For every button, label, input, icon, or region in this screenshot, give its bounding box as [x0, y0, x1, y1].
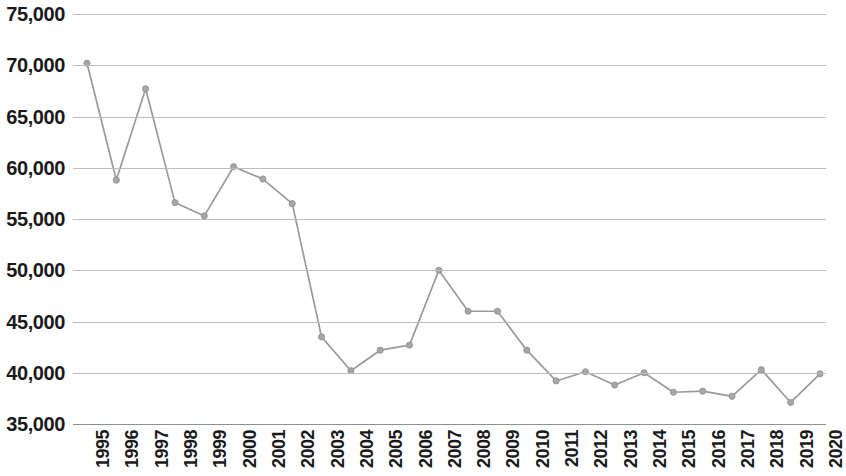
x-tick-label: 2012 [592, 430, 610, 468]
y-tick-label: 60,000 [6, 156, 65, 179]
data-point [406, 342, 412, 348]
data-point [524, 347, 530, 353]
y-axis: 75,00070,00065,00060,00055,00050,00045,0… [0, 0, 70, 476]
x-tick-label: 1999 [211, 430, 229, 468]
x-tick-label: 2002 [299, 430, 317, 468]
data-point [670, 389, 676, 395]
gridline [73, 373, 826, 374]
x-tick-label: 2006 [417, 430, 435, 468]
y-tick-label: 65,000 [6, 105, 65, 128]
x-tick-label: 2013 [622, 430, 640, 468]
plot-area [73, 14, 826, 424]
gridline [73, 322, 826, 323]
x-tick-label: 2017 [739, 430, 757, 468]
x-tick-label: 1996 [123, 430, 141, 468]
data-point [612, 382, 618, 388]
x-tick-label: 2005 [387, 430, 405, 468]
y-tick-label: 40,000 [6, 361, 65, 384]
series-markers [84, 60, 823, 405]
gridline [73, 117, 826, 118]
data-point [172, 200, 178, 206]
data-point [143, 86, 149, 92]
data-point [582, 369, 588, 375]
x-tick-label: 1995 [94, 430, 112, 468]
x-tick-label: 2010 [534, 430, 552, 468]
data-point [494, 308, 500, 314]
data-point [465, 308, 471, 314]
x-tick-label: 2019 [798, 430, 816, 468]
data-point [788, 399, 794, 405]
x-tick-label: 2018 [768, 430, 786, 468]
data-point [113, 177, 119, 183]
x-tick-label: 1998 [182, 430, 200, 468]
y-tick-label: 35,000 [6, 413, 65, 436]
x-tick-label: 2015 [680, 430, 698, 468]
x-tick-label: 2001 [270, 430, 288, 468]
x-tick-label: 2009 [504, 430, 522, 468]
gridline [73, 270, 826, 271]
x-tick-label: 2016 [710, 430, 728, 468]
data-point [318, 334, 324, 340]
x-tick-label: 2020 [827, 430, 845, 468]
x-tick-label: 2000 [241, 430, 259, 468]
data-point [377, 347, 383, 353]
data-point [260, 176, 266, 182]
gridline [73, 14, 826, 15]
series-line [87, 63, 820, 402]
y-tick-label: 55,000 [6, 208, 65, 231]
data-point [289, 201, 295, 207]
data-point [553, 378, 559, 384]
y-tick-label: 50,000 [6, 259, 65, 282]
data-point [700, 388, 706, 394]
y-tick-label: 70,000 [6, 54, 65, 77]
x-tick-label: 1997 [153, 430, 171, 468]
x-axis: 1995199619971998199920002001200220032004… [73, 424, 826, 476]
data-point [231, 164, 237, 170]
x-tick-label: 2003 [329, 430, 347, 468]
x-tick-label: 2008 [475, 430, 493, 468]
x-tick-label: 2007 [446, 430, 464, 468]
x-tick-label: 2014 [651, 430, 669, 468]
x-axis-line [73, 424, 826, 425]
gridline [73, 65, 826, 66]
data-point [729, 393, 735, 399]
y-tick-label: 45,000 [6, 310, 65, 333]
gridline [73, 168, 826, 169]
x-tick-label: 2004 [358, 430, 376, 468]
gridline [73, 219, 826, 220]
data-point [817, 371, 823, 377]
y-tick-label: 75,000 [6, 3, 65, 26]
x-tick-label: 2011 [563, 430, 581, 467]
